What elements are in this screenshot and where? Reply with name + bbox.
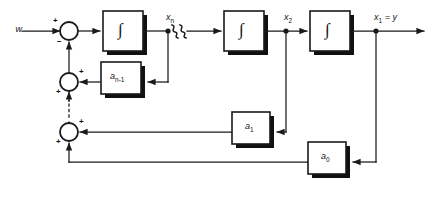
summer-bottom-circle [60,123,78,141]
block-diagram-figure: w xn x2 x1 = y ∫ ∫ ∫ an-1 a1 a0 + − + + [0,0,435,201]
label-input-w: w [16,25,23,34]
summer-top-sign-bottom: − [57,38,62,46]
summer-top-sign-left: + [53,17,58,25]
integrator-n-symbol: ∫ [118,21,123,38]
gain-a-1-label: a1 [245,122,254,133]
integrator-1-box [310,11,350,51]
integrator-1-symbol: ∫ [325,21,330,38]
label-state-x2: x2 [284,13,292,24]
gain-a-n-1-label: an-1 [110,72,124,83]
diagram-canvas [0,0,435,201]
summer-bottom-sign-right: + [79,118,84,126]
summer-bottom-sign-bottom: + [56,138,61,146]
integrator-n-box [103,11,143,51]
label-state-xn: xn [166,13,174,24]
summer-middle-sign-right: + [79,68,84,76]
path-break-symbol [172,25,186,38]
label-output-x1-y: x1 = y [374,13,397,24]
summer-middle-sign-bottom: + [56,88,61,96]
integrator-2-box [224,11,264,51]
summer-middle-circle [60,73,78,91]
integrator-2-symbol: ∫ [239,21,244,38]
gain-a-0-label: a0 [321,152,330,163]
summer-top-circle [60,22,78,40]
